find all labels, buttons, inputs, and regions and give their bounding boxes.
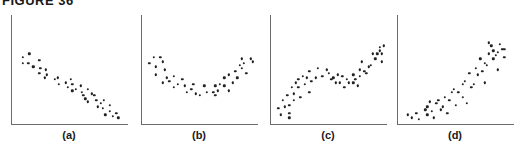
data-point — [308, 91, 310, 93]
data-point — [497, 51, 499, 53]
data-point — [466, 102, 468, 104]
data-point — [424, 109, 426, 111]
data-point — [282, 99, 284, 101]
data-point — [227, 89, 229, 91]
data-point — [181, 78, 183, 80]
data-point — [376, 53, 378, 55]
data-point — [361, 61, 363, 63]
data-point — [172, 75, 174, 77]
data-point — [234, 70, 236, 72]
data-point — [470, 86, 472, 88]
data-point — [168, 80, 170, 82]
data-point — [442, 105, 444, 107]
data-point — [492, 57, 494, 59]
data-point — [321, 75, 323, 77]
data-point — [345, 78, 347, 80]
data-point — [359, 75, 361, 77]
data-point — [354, 78, 356, 80]
data-point — [328, 72, 330, 74]
data-point — [290, 86, 292, 88]
data-point — [155, 65, 157, 67]
data-point — [475, 67, 477, 69]
data-point — [249, 57, 251, 59]
data-point — [477, 73, 479, 75]
data-point — [177, 83, 179, 85]
data-point — [243, 62, 245, 64]
data-point — [348, 81, 350, 83]
data-point — [339, 81, 341, 83]
data-point — [288, 112, 290, 114]
data-point — [164, 69, 166, 71]
data-point — [205, 91, 207, 93]
data-point — [374, 57, 376, 59]
data-point — [332, 77, 334, 79]
data-point — [297, 78, 299, 80]
data-point — [227, 73, 229, 75]
data-point — [446, 112, 448, 114]
plot-area-d — [397, 15, 514, 125]
data-point — [461, 96, 463, 98]
data-point — [148, 62, 150, 64]
plot-area-c — [270, 15, 387, 125]
data-point — [356, 85, 358, 87]
data-point — [194, 93, 196, 95]
data-point — [153, 56, 155, 58]
data-point — [433, 117, 435, 119]
data-point — [370, 64, 372, 66]
data-point — [186, 91, 188, 93]
data-point — [192, 83, 194, 85]
data-point — [457, 91, 459, 93]
data-point — [293, 93, 295, 95]
data-point — [310, 80, 312, 82]
data-point — [301, 75, 303, 77]
data-point — [488, 41, 490, 43]
data-point — [232, 81, 234, 83]
data-point — [497, 69, 499, 71]
data-point — [492, 49, 494, 51]
data-point — [503, 56, 505, 58]
data-point — [359, 69, 361, 71]
data-point — [448, 99, 450, 101]
data-point — [308, 70, 310, 72]
data-point — [365, 72, 367, 74]
data-point — [223, 85, 225, 87]
data-point — [212, 91, 214, 93]
data-point — [334, 81, 336, 83]
data-point — [437, 99, 439, 101]
data-point — [326, 69, 328, 71]
data-point — [295, 81, 297, 83]
data-point — [161, 81, 163, 83]
data-point — [288, 117, 290, 119]
data-point — [241, 67, 243, 69]
panel-label-d: (d) — [397, 129, 513, 141]
data-point — [337, 73, 339, 75]
data-point — [481, 70, 483, 72]
data-point — [439, 109, 441, 111]
data-point — [431, 110, 433, 112]
data-point — [455, 104, 457, 106]
data-point — [216, 89, 218, 91]
data-point — [428, 101, 430, 103]
data-point — [190, 88, 192, 90]
data-point — [490, 45, 492, 47]
data-point — [444, 96, 446, 98]
data-point — [223, 77, 225, 79]
data-point — [411, 117, 413, 119]
data-point — [299, 96, 301, 98]
data-point — [159, 56, 161, 58]
data-point — [317, 67, 319, 69]
data-point — [450, 91, 452, 93]
data-point — [288, 104, 290, 106]
data-point — [381, 53, 383, 55]
data-point — [352, 81, 354, 83]
data-point — [315, 77, 317, 79]
data-point — [494, 54, 496, 56]
data-point — [415, 112, 417, 114]
data-point — [472, 83, 474, 85]
data-point — [499, 43, 501, 45]
data-point — [483, 81, 485, 83]
data-point — [426, 105, 428, 107]
data-point — [172, 86, 174, 88]
data-point — [464, 80, 466, 82]
data-point — [293, 99, 295, 101]
